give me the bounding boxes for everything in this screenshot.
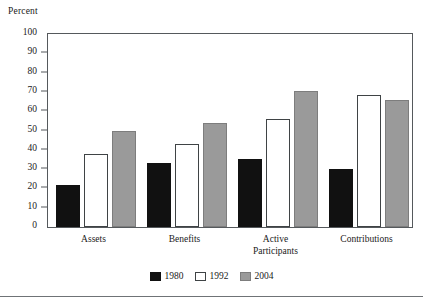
y-tick-label-70: 70 bbox=[28, 86, 38, 96]
y-tick-label-10: 10 bbox=[28, 202, 38, 212]
y-tick-label-0: 0 bbox=[32, 221, 37, 231]
legend-item-1992: 1992 bbox=[195, 272, 229, 282]
bar-2004 bbox=[112, 131, 136, 228]
y-tick-label-50: 50 bbox=[28, 125, 38, 135]
bar-1980 bbox=[329, 169, 353, 227]
bar-1980 bbox=[147, 163, 171, 227]
legend-item-2004: 2004 bbox=[240, 272, 274, 282]
y-tick-mark-40 bbox=[41, 148, 47, 149]
y-tick-label-30: 30 bbox=[28, 163, 38, 173]
legend-label: 1992 bbox=[210, 272, 229, 282]
legend-item-1980: 1980 bbox=[150, 272, 184, 282]
bar-2004 bbox=[385, 100, 409, 227]
y-tick-mark-70 bbox=[41, 90, 47, 91]
y-tick-mark-10 bbox=[41, 206, 47, 207]
x-axis-label: Contributions bbox=[321, 233, 412, 245]
bar-group bbox=[48, 34, 139, 227]
bar-chart-figure: Percent 1009080706050403020100 AssetsBen… bbox=[0, 0, 423, 305]
bar-1992 bbox=[266, 119, 290, 227]
y-axis-title: Percent bbox=[8, 6, 38, 16]
y-tick-label-40: 40 bbox=[28, 144, 38, 154]
y-tick-label-80: 80 bbox=[28, 67, 38, 77]
x-axis-labels: AssetsBenefitsActive ParticipantsContrib… bbox=[48, 233, 412, 267]
y-tick-mark-90 bbox=[41, 52, 47, 53]
bar-1980 bbox=[238, 159, 262, 227]
legend-swatch-icon-1992 bbox=[195, 272, 206, 281]
bar-group bbox=[321, 34, 412, 227]
bars-area bbox=[48, 34, 412, 227]
bar-1992 bbox=[175, 144, 199, 227]
bar-group bbox=[230, 34, 321, 227]
bar-2004 bbox=[294, 91, 318, 227]
bar-1992 bbox=[357, 95, 381, 227]
y-tick-mark-20 bbox=[41, 187, 47, 188]
y-tick-label-20: 20 bbox=[28, 183, 38, 193]
chart-legend: 198019922004 bbox=[0, 272, 423, 282]
bar-2004 bbox=[203, 123, 227, 227]
legend-swatch-icon-2004 bbox=[240, 272, 251, 281]
legend-label: 2004 bbox=[255, 272, 274, 282]
legend-label: 1980 bbox=[165, 272, 184, 282]
x-axis-label: Benefits bbox=[139, 233, 230, 245]
bar-1980 bbox=[56, 185, 80, 227]
bottom-divider bbox=[0, 296, 423, 297]
bar-1992 bbox=[84, 154, 108, 227]
y-tick-mark-30 bbox=[41, 168, 47, 169]
x-axis-label: Assets bbox=[48, 233, 139, 245]
y-tick-label-60: 60 bbox=[28, 105, 38, 115]
y-tick-mark-80 bbox=[41, 71, 47, 72]
y-tick-mark-50 bbox=[41, 129, 47, 130]
legend-swatch-icon-1980 bbox=[150, 272, 161, 281]
bar-group bbox=[139, 34, 230, 227]
y-tick-label-90: 90 bbox=[28, 48, 38, 58]
x-axis-label: Active Participants bbox=[230, 233, 321, 257]
y-tick-mark-60 bbox=[41, 110, 47, 111]
y-tick-label-100: 100 bbox=[23, 28, 37, 38]
y-axis-ticks: 1009080706050403020100 bbox=[0, 33, 47, 228]
